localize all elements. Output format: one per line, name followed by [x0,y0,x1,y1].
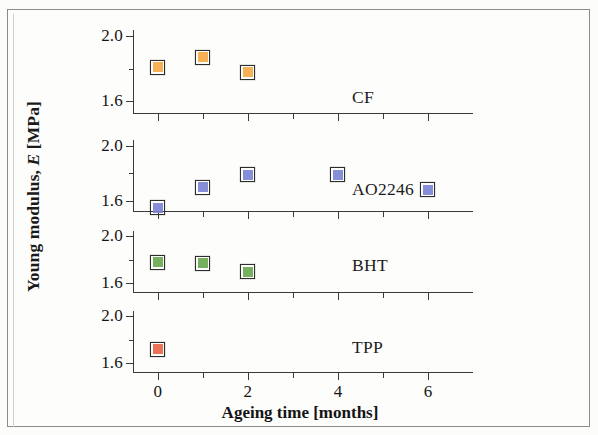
data-point-marker [330,167,345,182]
x-tick-major [338,373,339,380]
x-axis-spine [133,372,473,373]
data-point-marker [195,50,210,65]
y-tick-major [126,236,133,237]
y-tick-minor [129,173,134,174]
x-tick-major [248,212,249,219]
marker-fill [423,185,433,195]
data-point-marker [240,65,255,80]
y-axis-spine [133,30,134,114]
y-tick-minor [129,340,134,341]
x-tick-minor [203,212,204,217]
x-tick-minor [203,293,204,298]
panel-label-cf: CF [352,87,374,108]
figure-root: Young modulus, E [MPa] 2.01.62.01.62.01.… [0,0,598,435]
marker-fill [243,67,253,77]
data-point-marker [150,342,165,357]
x-tick-major [248,373,249,380]
panel-label-tpp: TPP [352,337,383,358]
marker-fill [198,52,208,62]
y-axis-spine [133,231,134,293]
y-tick-label: 2.0 [101,135,123,155]
data-point-marker [150,200,165,215]
y-axis-title-symbol: E [23,154,43,166]
x-tick-label: 4 [334,382,343,402]
y-tick-major [126,201,133,202]
x-tick-major [158,293,159,300]
x-tick-minor [383,114,384,119]
x-tick-minor [293,293,294,298]
x-tick-major [428,114,429,121]
panel-tpp: 2.01.60246 [133,311,473,373]
panel-label-ao2246: AO2246 [352,179,414,200]
marker-fill [243,267,253,277]
marker-fill [198,182,208,192]
y-tick-label: 1.6 [101,191,123,211]
x-tick-major [248,114,249,121]
y-tick-major [126,36,133,37]
y-axis-title: Young modulus, E [MPa] [23,32,44,362]
y-tick-major [126,316,133,317]
x-tick-minor [203,114,204,119]
y-tick-label: 1.6 [101,91,123,111]
x-tick-label: 6 [424,382,433,402]
x-tick-major [158,114,159,121]
y-axis-spine [133,311,134,373]
y-tick-major [126,363,133,364]
marker-fill [153,62,163,72]
data-point-marker [195,256,210,271]
data-point-marker [240,264,255,279]
data-point-marker [420,182,435,197]
x-tick-minor [293,373,294,378]
panel-label-bht: BHT [352,255,388,276]
x-tick-label: 2 [244,382,253,402]
y-tick-label: 1.6 [101,353,123,373]
x-tick-major [428,293,429,300]
marker-fill [333,170,343,180]
x-axis-spine [133,113,473,114]
y-tick-label: 2.0 [101,305,123,325]
plot-area: 2.01.6 [133,30,473,114]
marker-fill [153,257,163,267]
plot-area: 2.01.6 [133,231,473,293]
x-tick-minor [203,373,204,378]
x-tick-major [158,373,159,380]
data-point-marker [150,255,165,270]
y-tick-minor [129,260,134,261]
x-tick-minor [293,212,294,217]
y-tick-label: 1.6 [101,273,123,293]
plot-area: 2.01.60246 [133,311,473,373]
x-tick-minor [383,293,384,298]
y-tick-minor [129,69,134,70]
data-point-marker [240,167,255,182]
y-axis-spine [133,140,134,212]
data-point-marker [150,60,165,75]
marker-fill [153,203,163,213]
marker-fill [153,344,163,354]
panel-bht: 2.01.6 [133,231,473,293]
y-axis-title-suffix: [MPa] [23,101,43,154]
y-tick-label: 2.0 [101,26,123,46]
x-tick-major [428,212,429,219]
x-tick-major [338,114,339,121]
x-tick-major [428,373,429,380]
x-axis-spine [133,211,473,212]
panel-cf: 2.01.6 [133,30,473,114]
y-tick-major [126,146,133,147]
x-axis-title: Ageing time [months] [120,403,480,423]
plot-area: 2.01.6 [133,140,473,212]
x-axis-spine [133,292,473,293]
y-tick-label: 2.0 [101,225,123,245]
x-tick-minor [383,373,384,378]
panel-ao2246: 2.01.6 [133,140,473,212]
marker-fill [243,170,253,180]
y-tick-major [126,283,133,284]
x-tick-major [248,293,249,300]
x-tick-major [338,293,339,300]
marker-fill [198,258,208,268]
x-tick-major [338,212,339,219]
data-point-marker [195,180,210,195]
y-axis-title-prefix: Young modulus, [23,165,43,292]
y-tick-major [126,101,133,102]
x-tick-label: 0 [154,382,163,402]
x-tick-minor [383,212,384,217]
